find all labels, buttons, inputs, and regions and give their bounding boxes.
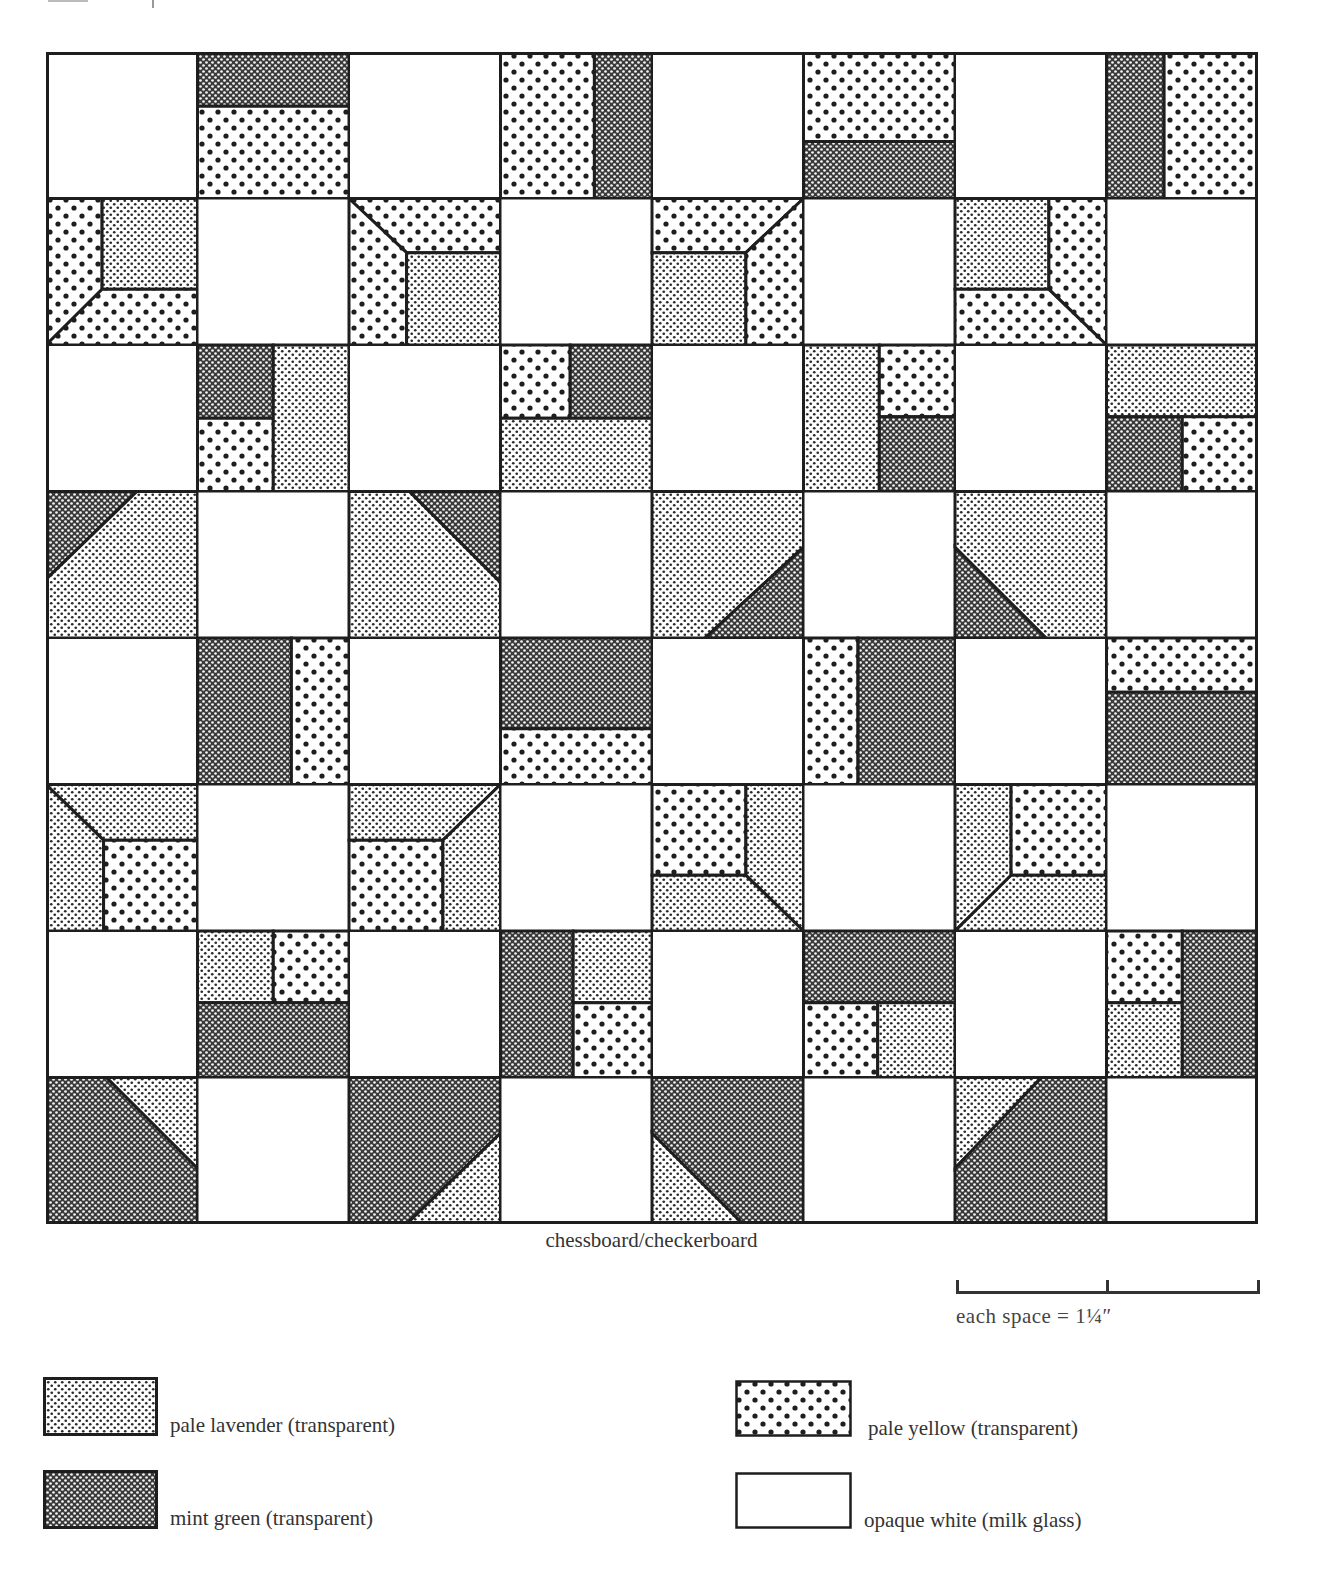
board-cell (198, 345, 350, 492)
glass-piece-white (46, 52, 198, 199)
glass-piece-white (46, 638, 198, 785)
board-cell (46, 345, 198, 492)
glass-piece-white (198, 199, 350, 346)
glass-piece-white (198, 785, 350, 932)
glass-piece-lavender (878, 1003, 955, 1078)
board-cell (198, 785, 350, 932)
glass-piece-lavender (102, 199, 197, 290)
glass-piece-lavender (573, 931, 652, 1003)
glass-piece-mint (198, 638, 292, 785)
scale-tick-end (1257, 1280, 1260, 1294)
glass-piece-white (955, 345, 1107, 492)
board-cell (46, 199, 198, 346)
board-cell (349, 931, 501, 1078)
board-cell (46, 785, 198, 932)
board-cell (804, 638, 956, 785)
board-cell (652, 785, 804, 932)
glass-piece-lavender (198, 931, 274, 1003)
board-cell (501, 52, 653, 199)
glass-piece-white (804, 492, 956, 639)
glass-piece-mint (198, 345, 274, 418)
glass-piece-lavender (652, 253, 746, 345)
glass-piece-yellow (198, 418, 274, 491)
board-cell (1107, 1078, 1259, 1225)
glass-piece-mint (879, 417, 955, 492)
glass-piece-mint (198, 1003, 350, 1078)
board-cell (349, 1078, 501, 1225)
board-cell (349, 638, 501, 785)
legend-item-white: opaque white (milk glass) (735, 1472, 1185, 1542)
board-cell (804, 492, 956, 639)
board-cell (955, 1078, 1107, 1225)
glass-piece-white (198, 492, 350, 639)
page-number-fragment (48, 0, 88, 2)
glass-piece-yellow (804, 52, 956, 141)
glass-piece-white (501, 492, 653, 639)
glass-piece-white (1107, 1078, 1259, 1225)
board-cell (1107, 52, 1259, 199)
board-cell (652, 1078, 804, 1225)
board-cell (349, 345, 501, 492)
scale-tick-start (956, 1280, 959, 1294)
board-cell (1107, 345, 1259, 492)
glass-piece-white (804, 1078, 956, 1225)
glass-piece-white (652, 931, 804, 1078)
board-cell (955, 345, 1107, 492)
board-cell (501, 931, 653, 1078)
glass-piece-mint (1107, 417, 1183, 492)
yellow-swatch-icon (735, 1380, 853, 1438)
glass-piece-mint (804, 141, 956, 198)
glass-piece-mint (501, 638, 653, 729)
board-cell (501, 199, 653, 346)
board-cell (955, 52, 1107, 199)
board-cell (349, 785, 501, 932)
glass-piece-white (349, 931, 501, 1078)
board-cell (46, 52, 198, 199)
board-cell (46, 638, 198, 785)
scale-tick-mid (1106, 1280, 1109, 1294)
legend-item-lavender: pale lavender (transparent) (43, 1377, 493, 1447)
glass-piece-lavender (955, 199, 1049, 290)
glass-piece-white (652, 638, 804, 785)
glass-piece-yellow (573, 1003, 652, 1078)
glass-piece-yellow (1164, 52, 1258, 199)
board-cell (501, 1078, 653, 1225)
glass-piece-white (652, 52, 804, 199)
board-cell (46, 1078, 198, 1225)
board-cell (349, 52, 501, 199)
glass-piece-white (955, 931, 1107, 1078)
board-cell (955, 638, 1107, 785)
glass-piece-yellow (291, 638, 349, 785)
board-cell (804, 1078, 956, 1225)
board-cell (652, 52, 804, 199)
glass-piece-lavender (407, 253, 501, 345)
glass-piece-yellow (501, 52, 595, 199)
legend-item-mint: mint green (transparent) (43, 1470, 493, 1540)
board-cell (46, 931, 198, 1078)
board-cell (501, 638, 653, 785)
glass-piece-white (198, 1078, 350, 1225)
scale-label: each space = 1¼″ (956, 1304, 1112, 1329)
glass-piece-mint (804, 931, 956, 1003)
board-cells (46, 52, 1258, 1224)
board-cell (1107, 931, 1259, 1078)
glass-piece-mint (858, 638, 955, 785)
board-cell (804, 931, 956, 1078)
glass-piece-yellow (1107, 638, 1259, 692)
chessboard-diagram (46, 52, 1258, 1224)
legend-item-yellow: pale yellow (transparent) (735, 1380, 1185, 1450)
glass-piece-yellow (1182, 417, 1258, 492)
board-cell (198, 199, 350, 346)
legend-label: mint green (transparent) (170, 1506, 373, 1531)
glass-piece-white (1107, 492, 1259, 639)
glass-piece-white (804, 199, 956, 346)
page-header-fragment (48, 0, 158, 10)
board-cell (652, 345, 804, 492)
glass-piece-white (349, 52, 501, 199)
board-cell (349, 492, 501, 639)
board-cell (1107, 638, 1259, 785)
glass-piece-mint (198, 52, 350, 106)
board-cell (501, 492, 653, 639)
glass-piece-yellow (501, 729, 653, 785)
board-cell (652, 638, 804, 785)
